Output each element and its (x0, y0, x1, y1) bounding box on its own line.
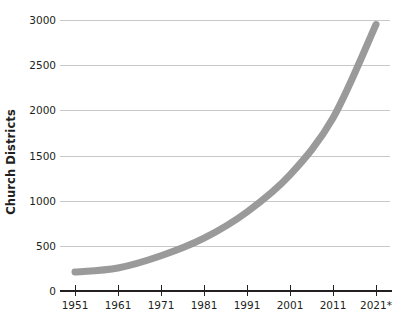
x-tick-label: 1981 (191, 299, 218, 311)
chart-container: Church Districts 05001000150020002500300… (0, 0, 404, 324)
gridline-y (60, 156, 390, 157)
gridline-y (60, 65, 390, 66)
x-tick-mark (247, 285, 248, 296)
y-tick-label: 500 (12, 240, 56, 252)
gridline-y (60, 201, 390, 202)
y-tick-label: 2000 (12, 104, 56, 116)
chart-title (0, 0, 404, 10)
x-tick-mark (333, 285, 334, 296)
y-tick-label: 1000 (12, 195, 56, 207)
x-tick-label: 1961 (105, 299, 132, 311)
x-tick-label: 2001 (277, 299, 304, 311)
y-tick-label: 1500 (12, 150, 56, 162)
y-tick-label: 3000 (12, 14, 56, 26)
gridline-y (60, 20, 390, 21)
x-tick-mark (376, 285, 377, 296)
x-tick-mark (161, 285, 162, 296)
x-tick-mark (75, 285, 76, 296)
x-axis-line (60, 290, 392, 292)
y-tick-label: 0 (12, 285, 56, 297)
y-axis-title: Church Districts (0, 0, 22, 324)
gridline-y (60, 110, 390, 111)
x-tick-label: 1971 (148, 299, 175, 311)
x-tick-label: 2021* (360, 299, 392, 311)
plot-area (60, 20, 390, 291)
x-tick-label: 2011 (320, 299, 347, 311)
x-tick-label: 1951 (62, 299, 89, 311)
gridline-y (60, 246, 390, 247)
x-tick-mark (290, 285, 291, 296)
x-tick-label: 1991 (234, 299, 261, 311)
x-tick-mark (204, 285, 205, 296)
x-tick-mark (118, 285, 119, 296)
y-tick-label: 2500 (12, 59, 56, 71)
